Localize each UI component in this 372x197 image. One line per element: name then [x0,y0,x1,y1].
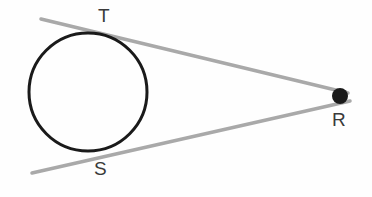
tangent-line-lower [32,101,350,173]
geometry-diagram: T S R [0,0,372,197]
tangent-line-upper [41,19,348,93]
label-point-r: R [332,110,346,129]
point-r-dot [332,88,348,104]
label-point-t: T [98,6,110,25]
geometry-canvas [0,0,372,197]
label-point-s: S [94,159,107,178]
circle-shape [29,33,147,151]
